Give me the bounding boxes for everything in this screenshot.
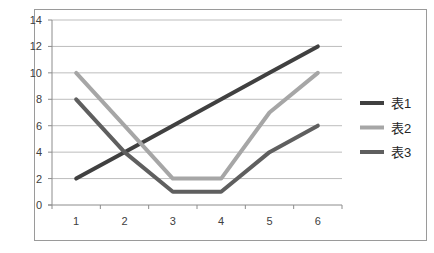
gridlines: [52, 20, 342, 179]
y-tick-label: 0: [36, 199, 42, 211]
legend-label-1: 表1: [391, 96, 411, 111]
y-axis: 02468101214: [30, 14, 52, 211]
y-tick-label: 4: [36, 146, 42, 158]
series-lines: [76, 46, 318, 191]
x-tick-label: 1: [73, 215, 79, 227]
x-tick-label: 3: [170, 215, 176, 227]
x-tick-label: 6: [315, 215, 321, 227]
y-tick-label: 12: [30, 40, 42, 52]
y-tick-label: 8: [36, 93, 42, 105]
y-tick-label: 6: [36, 120, 42, 132]
legend: 表1表2表3: [360, 96, 411, 160]
legend-label-2: 表2: [391, 121, 411, 136]
y-tick-label: 10: [30, 67, 42, 79]
x-tick-label: 4: [218, 215, 224, 227]
legend-label-3: 表3: [391, 145, 411, 160]
x-tick-label: 5: [266, 215, 272, 227]
y-tick-label: 2: [36, 173, 42, 185]
line-chart: 02468101214 123456 表1表2表3: [0, 0, 434, 253]
x-tick-label: 2: [121, 215, 127, 227]
x-axis: 123456: [48, 205, 342, 227]
y-tick-label: 14: [30, 14, 42, 26]
